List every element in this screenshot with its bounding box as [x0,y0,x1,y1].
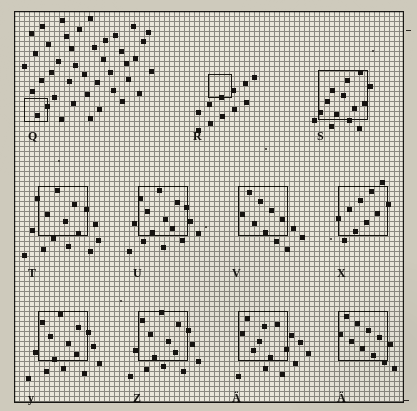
data-point [85,92,90,97]
data-point [207,102,212,107]
panel-label-v: V [232,267,241,279]
data-point [96,238,101,243]
data-point [141,239,146,244]
data-point [77,27,82,32]
data-point [375,211,380,216]
data-point [382,360,387,365]
data-point [236,374,241,379]
data-point [300,235,305,240]
data-point [247,190,252,195]
data-point [22,253,27,258]
data-point [336,216,341,221]
data-point [219,95,224,100]
data-point [269,208,274,213]
data-point [52,95,57,100]
data-point [39,78,44,83]
data-point [46,42,51,47]
data-point [388,342,393,347]
data-point [355,321,360,326]
data-point [40,320,45,325]
data-point [231,88,236,93]
data-point [88,116,93,121]
data-point [334,112,339,117]
data-point [26,376,31,381]
data-point [208,121,213,126]
data-point [67,79,72,84]
data-point [312,118,317,123]
data-point [377,335,382,340]
data-point [40,24,45,29]
data-point [140,318,145,323]
data-point [196,231,201,236]
data-point [274,239,279,244]
data-point [72,202,77,207]
data-point [120,99,125,104]
panel-label-q: Q [28,130,37,142]
data-point [232,107,237,112]
data-point [48,334,53,339]
data-point [196,359,201,364]
data-point [108,70,113,75]
data-point [245,316,250,321]
data-point [362,101,367,106]
data-point [289,333,294,338]
data-point [329,124,334,129]
paper-speck [372,50,374,52]
data-point [244,100,249,105]
data-point [360,346,365,351]
data-point [262,324,267,329]
paper-speck [120,300,122,302]
data-point [338,332,343,337]
data-point [357,126,362,131]
graph-grid [14,11,404,403]
data-point [392,366,397,371]
data-point [137,91,142,96]
data-point [170,226,175,231]
data-point [51,236,56,241]
data-point [29,31,34,36]
data-point [127,249,132,254]
panel-label-a2: Ä [337,392,346,404]
data-point [280,217,285,222]
panel-label-z: Z [133,392,141,404]
data-point [82,72,87,77]
data-point [358,198,363,203]
data-point [71,101,76,106]
data-point [30,89,35,94]
data-point [30,228,35,233]
data-point [124,61,129,66]
data-point [186,328,191,333]
data-point [52,357,57,362]
data-point [243,81,248,86]
data-point [33,51,38,56]
data-point [45,212,50,217]
data-point [380,180,385,185]
data-point [133,56,138,61]
paper-sheet: QRSTUVXyZÄÄ [0,0,417,411]
data-point [280,372,285,377]
data-point [298,340,303,345]
data-point [69,46,74,51]
data-point [128,374,133,379]
paper-speck [265,148,267,150]
data-point [220,114,225,119]
data-point [66,244,71,249]
data-point [252,75,257,80]
data-point [371,353,376,358]
data-point [76,231,81,236]
data-point [148,332,153,337]
data-point [161,245,166,250]
data-point [41,247,46,252]
panel-label-s: S [317,130,324,142]
data-point [263,230,268,235]
data-point [345,78,350,83]
data-point [59,117,64,122]
data-point [293,361,298,366]
paper-speck [330,238,332,240]
panel-label-t: T [28,267,36,279]
panel-label-u: U [133,267,142,279]
data-point [22,64,27,69]
data-point [258,199,263,204]
data-point [91,344,96,349]
data-point [35,113,40,118]
